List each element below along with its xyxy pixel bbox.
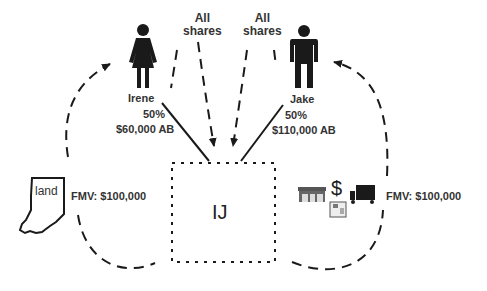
truck-icon [350,185,375,204]
irene-basis: $60,000 AB [116,124,174,135]
jake-shares-arrow [233,50,247,146]
dollar-icon: $ [331,177,342,199]
land-fmv: FMV: $100,000 [71,191,146,202]
share-transfer-label-right: All shares [243,12,282,38]
jake-ownership: 50% [285,110,307,121]
irene-icon [129,24,157,88]
business-assets-fmv: FMV: $100,000 [386,191,461,202]
assets-transfer-arc [334,62,387,176]
share-label-line2: shares [243,25,282,38]
diagram-canvas: $ [0,0,487,291]
land-label: land [35,184,58,198]
jake-shares-line [274,50,276,66]
entity-label: IJ [212,201,228,224]
land-bottom-arc [78,215,155,268]
register-icon [330,202,346,217]
irene-shares-line [171,50,177,88]
jake-basis: $110,000 AB [272,125,336,136]
store-icon [298,187,326,202]
land-transfer-arc [66,64,110,157]
irene-name: Irene [128,93,154,104]
jake-icon [290,25,318,88]
share-label-line2: shares [183,25,222,38]
irene-shares-arrow [198,42,214,146]
share-transfer-label-left: All shares [183,12,222,38]
assets-bottom-arc [292,210,383,269]
irene-ownership: 50% [143,109,165,120]
jake-name: Jake [290,94,314,105]
